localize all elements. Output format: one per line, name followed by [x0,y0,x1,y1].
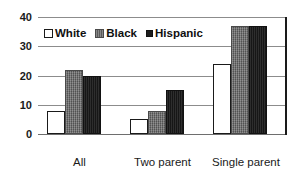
y-tick-label-20: 20 [4,70,32,81]
bar-black-two-parent-families[interactable] [148,111,166,134]
x-axis-labels: All families Two parent families Single … [38,140,285,182]
legend-label-white: White [55,28,86,40]
bar-white-all-families[interactable] [47,111,65,134]
bar-hispanic-single-parent-families[interactable] [249,26,267,134]
legend-item-white[interactable]: White [44,28,86,40]
bar-black-all-families[interactable] [65,70,83,134]
bar-hispanic-all-families[interactable] [83,76,101,135]
y-tick-label-0: 0 [4,129,32,140]
hatched-square-icon [95,29,104,38]
bar-white-single-parent-families[interactable] [213,64,231,134]
bar-chart: 40 30 20 10 0 [0,0,305,186]
x-label-two-parent-families-line2: families [121,184,204,186]
filled-square-icon [146,30,153,37]
x-label-all-families-line1: All [38,155,121,170]
y-tick-label-10: 10 [4,99,32,110]
x-label-single-parent-families: Single parent families [202,140,290,186]
x-label-single-parent-families-line2: families [202,184,290,186]
bar-black-single-parent-families[interactable] [231,26,249,134]
legend: White Black Hispanic [44,28,203,40]
plot-right-border [285,17,287,135]
gridline-0-baseline [38,134,285,135]
y-tick-label-40: 40 [4,12,32,23]
legend-item-black[interactable]: Black [95,28,137,40]
x-label-all-families-line2: families [38,184,121,186]
x-label-two-parent-families: Two parent families [121,140,204,186]
y-axis: 40 30 20 10 0 [4,0,32,186]
bar-hispanic-two-parent-families[interactable] [166,90,184,134]
legend-label-black: Black [106,28,137,40]
bar-white-two-parent-families[interactable] [130,119,148,134]
bar-group-single-parent-families [213,17,267,134]
open-square-icon [44,29,53,38]
y-tick-label-30: 30 [4,41,32,52]
x-label-single-parent-families-line1: Single parent [202,155,290,170]
x-label-all-families: All families [38,140,121,186]
x-label-two-parent-families-line1: Two parent [121,155,204,170]
legend-label-hispanic: Hispanic [155,28,203,40]
legend-item-hispanic[interactable]: Hispanic [146,28,203,40]
